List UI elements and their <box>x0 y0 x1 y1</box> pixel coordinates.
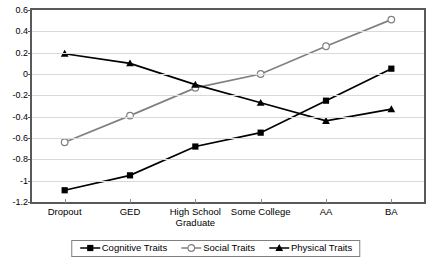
legend-entry-social-traits[interactable]: Social Traits <box>180 243 255 253</box>
x-axis-tick-mark <box>130 199 131 203</box>
y-axis-tick-label: 0.2 <box>2 48 28 57</box>
data-point-marker <box>127 112 134 119</box>
gridline <box>32 117 424 118</box>
series-line <box>65 20 392 143</box>
gridline <box>32 159 424 160</box>
gridline <box>32 181 424 182</box>
data-point-marker <box>127 172 133 178</box>
data-point-marker <box>192 143 198 149</box>
legend-entry-physical-traits[interactable]: Physical Traits <box>268 243 352 253</box>
x-axis-tick-mark <box>65 199 66 203</box>
y-axis-tick-mark <box>28 159 32 160</box>
gridline <box>32 53 424 54</box>
gridline <box>32 31 424 32</box>
chart-legend: Cognitive TraitsSocial TraitsPhysical Tr… <box>71 240 360 257</box>
legend-marker-filled-triangle-icon <box>268 243 290 253</box>
series-physical-traits <box>61 50 395 124</box>
y-axis-tick-mark <box>28 31 32 32</box>
gridline <box>32 138 424 139</box>
x-axis-tick-mark <box>195 199 196 203</box>
data-point-marker <box>62 187 68 193</box>
y-axis-tick-label: -0.8 <box>2 155 28 164</box>
legend-marker-filled-square-icon <box>79 243 101 253</box>
data-point-marker <box>388 66 394 72</box>
series-cognitive-traits <box>62 66 395 194</box>
y-axis-tick-mark <box>28 181 32 182</box>
gridline <box>32 74 424 75</box>
legend-label: Social Traits <box>203 243 255 253</box>
y-axis-tick-mark <box>28 53 32 54</box>
y-axis-tick-label: -0.6 <box>2 134 28 143</box>
y-axis-tick-labels: 0.60.40.20-0.2-0.4-0.6-0.8-1-1.2 <box>0 8 28 204</box>
x-axis-tick-labels: DropoutGEDHigh School GraduateSome Colle… <box>30 206 426 236</box>
y-axis-tick-mark <box>28 74 32 75</box>
y-axis-tick-mark <box>28 95 32 96</box>
legend-marker-open-circle-icon <box>180 243 202 253</box>
data-point-marker <box>387 105 395 112</box>
y-axis-tick-label: -0.4 <box>2 112 28 121</box>
legend-entry-cognitive-traits[interactable]: Cognitive Traits <box>79 243 167 253</box>
y-axis-tick-mark <box>28 10 32 11</box>
x-axis-tick-mark <box>261 199 262 203</box>
data-point-marker <box>61 139 68 146</box>
series-line <box>65 54 392 121</box>
data-point-marker <box>323 98 329 104</box>
y-axis-tick-mark <box>28 202 32 203</box>
series-social-traits <box>61 16 394 145</box>
y-axis-tick-label: 0 <box>2 70 28 79</box>
y-axis-tick-label: 0.4 <box>2 27 28 36</box>
y-axis-tick-mark <box>28 117 32 118</box>
x-axis-tick-mark <box>326 199 327 203</box>
y-axis-tick-mark <box>28 138 32 139</box>
y-axis-tick-label: 0.6 <box>2 6 28 15</box>
line-chart: 0.60.40.20-0.2-0.4-0.6-0.8-1-1.2 Dropout… <box>0 0 431 266</box>
data-point-marker <box>323 43 330 50</box>
plot-area <box>30 8 426 204</box>
series-layer <box>32 10 424 202</box>
data-point-marker <box>388 16 395 23</box>
gridline <box>32 95 424 96</box>
x-axis-tick-mark <box>391 199 392 203</box>
y-axis-tick-label: -0.2 <box>2 91 28 100</box>
y-axis-tick-label: -1 <box>2 176 28 185</box>
series-line <box>65 69 392 191</box>
x-axis-tick-label: BA <box>348 206 431 217</box>
legend-label: Cognitive Traits <box>102 243 167 253</box>
data-point-marker <box>258 130 264 136</box>
legend-label: Physical Traits <box>291 243 352 253</box>
